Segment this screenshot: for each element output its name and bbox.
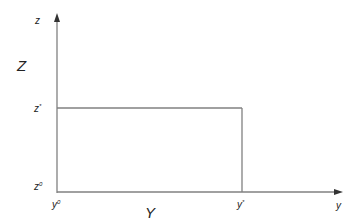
vertical-axis-label: z [34,15,40,26]
tick-sup: * [39,103,42,109]
tick-label-y-star: y* [236,199,245,210]
tick-label-y-zero: y0 [51,199,61,210]
arrowhead-up-icon [54,13,60,22]
vertical-axis-title: Z [16,57,27,74]
tick-sup: 0 [57,199,61,205]
vertical-axis [54,13,60,193]
diagram-canvas: z Z z* z0 y0 y* Y y [0,0,357,224]
horizontal-axis-title: Y [145,204,156,221]
region-boundary [57,108,242,192]
tick-label-z-zero: z0 [33,181,43,192]
horizontal-axis-label: y [335,200,342,211]
arrowhead-right-icon [334,189,343,195]
tick-sup: * [242,199,245,205]
tick-label-z-star: z* [33,103,42,114]
tick-sup: 0 [39,181,43,187]
horizontal-axis [57,189,343,195]
